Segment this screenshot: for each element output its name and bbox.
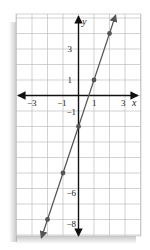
data-point: [61, 171, 66, 176]
y-axis-label: y: [81, 16, 87, 27]
data-point: [107, 31, 112, 36]
tick-label-y-1: 1: [68, 75, 73, 85]
x-axis-label: x: [131, 97, 137, 108]
data-point: [76, 124, 81, 129]
data-point: [45, 217, 50, 222]
tick-label-x-3: 3: [121, 98, 126, 108]
line-chart: x y −3 −1 1 3 3 1 −1 −6 −8: [0, 0, 150, 250]
data-point: [92, 78, 97, 83]
tick-label-x-neg1: −1: [57, 98, 67, 108]
tick-label-x-neg3: −3: [27, 98, 37, 108]
tick-label-y-neg8: −8: [66, 219, 76, 229]
tick-label-x-1: 1: [92, 98, 97, 108]
tick-label-y-neg6: −6: [66, 188, 76, 198]
tick-label-y-neg1: −1: [66, 107, 76, 117]
tick-label-y-3: 3: [68, 44, 73, 54]
